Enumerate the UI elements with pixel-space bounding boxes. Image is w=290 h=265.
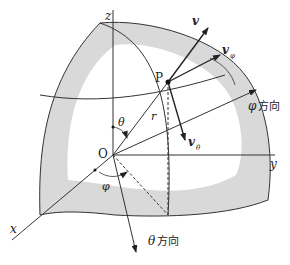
- radius-label: r: [151, 110, 157, 123]
- phi-direction-label: φ 方向: [248, 99, 280, 113]
- z-axis-label: z: [104, 9, 112, 23]
- x-axis-dot: [94, 169, 97, 172]
- spherical-coordinates-diagram: z y x O P r θ φ v v φ v θ φ 方向 θ 方向: [0, 0, 290, 265]
- origin-label: O: [98, 147, 108, 161]
- point-P: [166, 80, 171, 85]
- svg-text:v: v: [188, 135, 196, 149]
- svg-text:φ: φ: [230, 52, 235, 60]
- y-axis-label: y: [269, 157, 277, 171]
- point-label: P: [155, 71, 163, 85]
- svg-text:φ: φ: [248, 99, 257, 113]
- theta-direction-label: θ 方向: [148, 234, 179, 248]
- theta-angle-label: θ: [118, 116, 125, 129]
- vector-v-label: v: [192, 14, 200, 28]
- svg-text:θ: θ: [148, 234, 156, 248]
- x-axis-label: x: [10, 222, 17, 236]
- phi-angle-label: φ: [102, 180, 110, 193]
- svg-text:方向: 方向: [258, 99, 280, 113]
- svg-text:方向: 方向: [157, 234, 179, 248]
- svg-text:v: v: [222, 43, 230, 57]
